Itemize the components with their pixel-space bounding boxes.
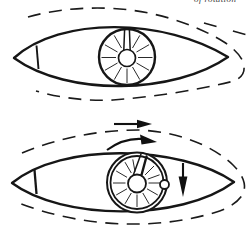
figure-bottom (12, 120, 245, 224)
freestream-arrow (114, 120, 152, 128)
rotor-top (99, 29, 155, 85)
hub-keyway-left-top (124, 30, 125, 51)
hub-keyway-right-top (129, 30, 130, 51)
diagram-canvas (0, 0, 249, 233)
rotation-arrow-head (140, 135, 157, 145)
rotor-hub-top (119, 50, 136, 67)
rotation-arrow (107, 135, 157, 151)
freestream-arrow-head (137, 120, 152, 128)
rim-ball (160, 180, 169, 189)
rotor-hub-bottom (128, 175, 146, 193)
streamline-dash-fragment (204, 23, 249, 36)
rotation-arrow-shaft (107, 139, 143, 150)
rotor-bottom (107, 153, 169, 213)
figure-page: of rotation (0, 0, 249, 233)
figure-top (14, 8, 249, 100)
